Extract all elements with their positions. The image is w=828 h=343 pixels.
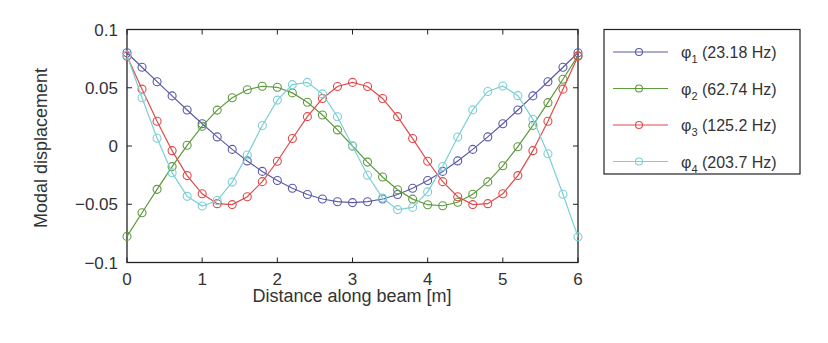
series-phi-1 xyxy=(123,49,582,207)
y-axis-tick-labels: 0.10.050−0.05−0.1 xyxy=(75,21,118,273)
x-tick-label: 0 xyxy=(122,270,131,289)
series-group xyxy=(123,49,582,241)
x-axis-label: Distance along beam [m] xyxy=(252,286,451,306)
x-tick-label: 6 xyxy=(573,270,582,289)
y-tick-label: −0.05 xyxy=(75,195,118,214)
y-tick-label: 0 xyxy=(109,137,118,156)
y-tick-label: −0.1 xyxy=(84,254,118,273)
series-line xyxy=(127,53,578,203)
series-phi-4 xyxy=(123,51,582,241)
y-axis-label: Modal displacement xyxy=(31,68,51,228)
legend: φ1 (23.18 Hz)φ2 (62.74 Hz)φ3 (125.2 Hz)φ… xyxy=(604,30,800,175)
x-tick-label: 5 xyxy=(498,270,507,289)
y-tick-label: 0.1 xyxy=(94,21,118,40)
series-phi-3 xyxy=(123,52,582,208)
x-tick-label: 1 xyxy=(197,270,206,289)
chart: 0123456 0.10.050−0.05−0.1 Distance along… xyxy=(0,0,828,343)
plot-area xyxy=(123,30,582,263)
y-tick-label: 0.05 xyxy=(85,79,118,98)
